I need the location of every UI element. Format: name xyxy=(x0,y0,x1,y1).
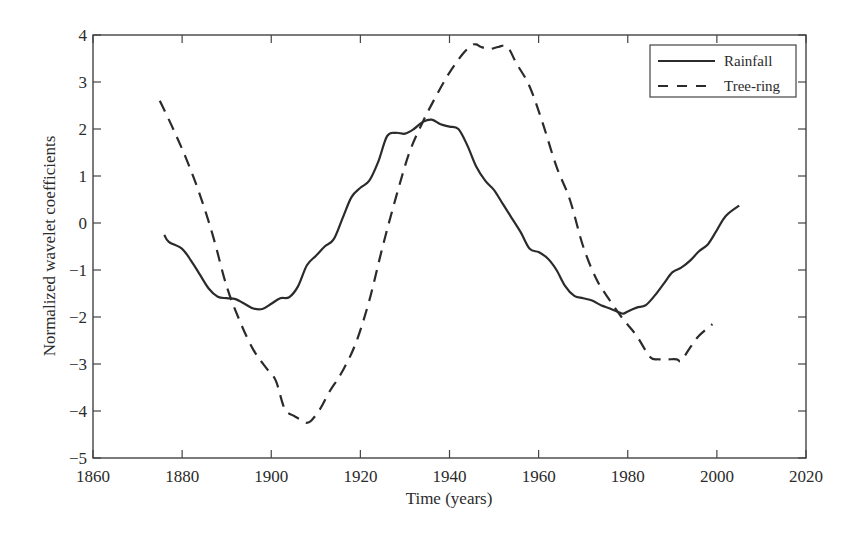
x-tick-label: 1920 xyxy=(343,467,377,486)
plot-frame xyxy=(93,35,806,458)
legend: Rainfall Tree-ring xyxy=(650,45,796,97)
x-tick-label: 1860 xyxy=(76,467,110,486)
y-tick-label: 1 xyxy=(79,167,88,186)
y-tick-label: 0 xyxy=(79,214,88,233)
x-tick-label: 1980 xyxy=(611,467,645,486)
series-layer xyxy=(160,44,739,423)
plot-border xyxy=(93,35,806,458)
x-axis-label: Time (years) xyxy=(406,489,493,508)
series-rainfall-line xyxy=(164,120,739,314)
x-axis-ticks: 186018801900192019401960198020002020 xyxy=(76,35,823,486)
x-tick-label: 1960 xyxy=(522,467,556,486)
y-tick-label: 4 xyxy=(79,26,88,45)
x-tick-label: 1880 xyxy=(165,467,199,486)
y-axis-label: Normalized wavelet coefficients xyxy=(40,136,59,357)
y-tick-label: −2 xyxy=(69,308,87,327)
x-tick-label: 2000 xyxy=(700,467,734,486)
series-tree-ring-line xyxy=(160,44,713,423)
y-tick-label: 3 xyxy=(79,73,88,92)
y-tick-label: 2 xyxy=(79,120,88,139)
line-chart: 186018801900192019401960198020002020 432… xyxy=(0,0,865,538)
y-tick-label: −1 xyxy=(69,261,87,280)
legend-label-tree-ring: Tree-ring xyxy=(724,78,781,94)
y-tick-label: −4 xyxy=(69,402,88,421)
y-tick-label: −3 xyxy=(69,355,87,374)
legend-label-rainfall: Rainfall xyxy=(724,53,772,69)
y-tick-label: −5 xyxy=(69,449,87,468)
x-tick-label: 1940 xyxy=(433,467,467,486)
x-tick-label: 1900 xyxy=(254,467,288,486)
x-tick-label: 2020 xyxy=(789,467,823,486)
